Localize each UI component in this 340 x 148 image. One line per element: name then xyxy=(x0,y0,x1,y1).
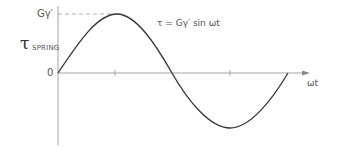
x-axis-arrow xyxy=(302,71,310,76)
y-max-label: Gγ′ xyxy=(37,8,53,19)
y-axis-symbol: τ xyxy=(20,33,29,53)
equation-label: τ = Gγ′ sin ωt xyxy=(157,18,220,28)
sine-curve xyxy=(58,14,288,128)
y-axis-subscript: SPRING xyxy=(32,44,59,52)
x-axis-label: ωt xyxy=(307,78,318,88)
origin-label: 0 xyxy=(47,67,53,78)
